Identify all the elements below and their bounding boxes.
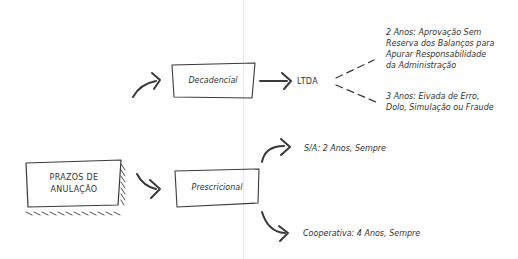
- ltda-branch-lower: [336, 85, 376, 102]
- ltda-item-2-anos: 2 Anos: Aprovação Sem Reserva dos Balanç…: [386, 27, 494, 71]
- prescricional-node: Prescricional: [176, 183, 258, 192]
- text-line: 2 Anos: Aprovação Sem: [386, 27, 494, 38]
- ltda-node: LTDA: [297, 76, 318, 87]
- root-node: PRAZOS DE ANULAÇÃO: [28, 172, 120, 196]
- decadencial-node: Decadencial: [172, 76, 254, 85]
- arrow-to-decadencial: [133, 81, 156, 97]
- text-line: da Administração: [386, 60, 494, 71]
- cooperativa-item: Cooperativa: 4 Anos, Sempre: [303, 228, 420, 239]
- root-label-line1: PRAZOS DE: [28, 172, 120, 184]
- root-label-line2: ANULAÇÃO: [28, 184, 120, 196]
- text-line: 3 Anos: Eivada de Erro,: [386, 91, 494, 102]
- text-line: Apurar Responsabilidade: [386, 49, 494, 60]
- ltda-item-3-anos: 3 Anos: Eivada de Erro, Dolo, Simulação …: [386, 91, 494, 113]
- text-line: Dolo, Simulação ou Fraude: [386, 102, 494, 113]
- ltda-branch-upper: [336, 60, 374, 78]
- text-line: Reserva dos Balanços para: [386, 38, 494, 49]
- sa-item: S/A: 2 Anos, Sempre: [304, 143, 386, 154]
